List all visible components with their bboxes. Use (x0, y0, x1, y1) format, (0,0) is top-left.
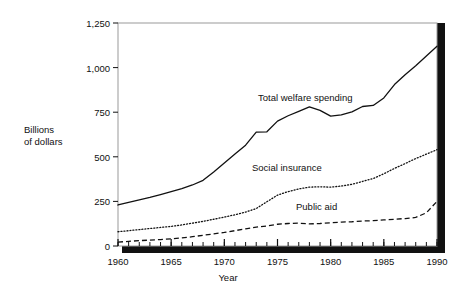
y-tick-label: 0 (72, 241, 110, 252)
x-tick-label: 1975 (267, 256, 288, 267)
series-label-social-insurance: Social insurance (252, 162, 322, 173)
y-axis-title-line2: of dollars (24, 136, 63, 147)
y-tick-label: 500 (72, 151, 110, 162)
series-label-total-welfare-spending: Total welfare spending (258, 92, 353, 103)
cropped-top-caption (0, 0, 456, 10)
x-tick-label: 1990 (426, 256, 447, 267)
plot-shadow-right (437, 23, 445, 253)
y-tick-label: 1,000 (72, 62, 110, 73)
plot-area (0, 0, 456, 293)
y-axis-ticks (113, 23, 118, 246)
y-axis-title-line1: Billions (24, 124, 54, 135)
x-tick-label: 1965 (161, 256, 182, 267)
welfare-spending-line-chart: Billionsof dollars Year Total welfare sp… (0, 0, 456, 293)
plot-frame (118, 23, 437, 246)
x-axis-title: Year (0, 272, 456, 284)
y-tick-label: 750 (72, 107, 110, 118)
x-tick-label: 1980 (320, 256, 341, 267)
cropped-bottom-caption (0, 286, 456, 293)
x-tick-label: 1970 (214, 256, 235, 267)
y-tick-label: 1,250 (72, 18, 110, 29)
x-tick-label: 1960 (107, 256, 128, 267)
x-tick-label: 1985 (373, 256, 394, 267)
y-tick-label: 250 (72, 196, 110, 207)
y-axis-title: Billionsof dollars (24, 124, 63, 147)
series-label-public-aid: Public aid (296, 201, 337, 212)
plot-shadow-bottom (122, 246, 445, 253)
